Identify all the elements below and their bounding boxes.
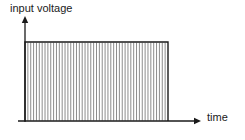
right-arrow-icon bbox=[194, 118, 201, 124]
waveform-figure: input voltage time bbox=[0, 0, 245, 140]
pulse-hatch-fill bbox=[28, 43, 165, 121]
y-axis-label: input voltage bbox=[10, 2, 72, 14]
x-axis-label: time bbox=[207, 111, 228, 123]
up-arrow-icon bbox=[22, 16, 28, 23]
waveform-diagram-canvas: input voltage time bbox=[0, 0, 245, 140]
